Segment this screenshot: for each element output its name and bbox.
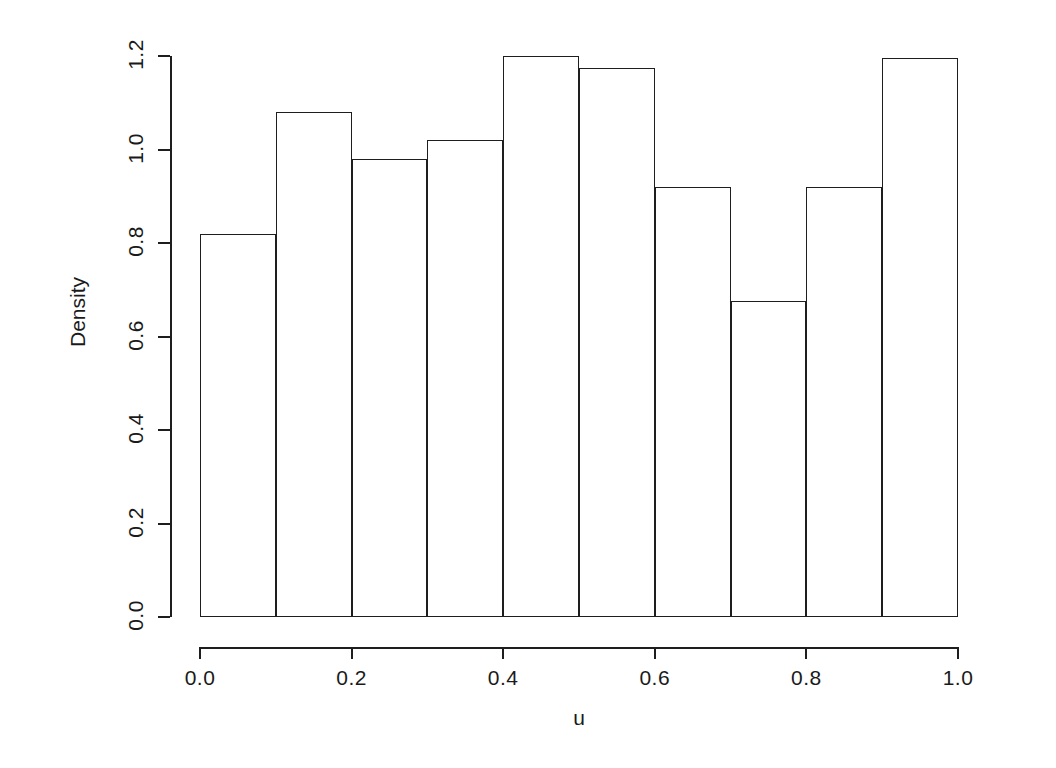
histogram-bar [276,112,352,617]
x-axis-tick [654,647,656,659]
x-axis-tick [957,647,959,659]
y-axis-tick-label-text: 0.0 [125,586,146,646]
histogram-bar [503,56,579,617]
x-axis-tick [805,647,807,659]
histogram-bar [427,140,503,617]
y-axis-tick-label-text: 0.6 [125,305,146,365]
y-axis-title: Density [66,252,90,372]
y-axis-tick-label: 1.2 [105,44,165,68]
x-axis-tick-label: 0.0 [160,666,240,690]
x-axis-tick-label: 0.2 [312,666,392,690]
histogram-figure: Density u 0.00.20.40.60.81.01.20.00.20.4… [0,0,1056,768]
y-axis-line [170,56,172,617]
y-axis-tick-label-text: 0.2 [125,492,146,552]
x-axis-tick [351,647,353,659]
x-axis-line [200,647,958,649]
y-axis-tick-label: 1.0 [105,138,165,162]
histogram-bar [579,68,655,617]
x-axis-tick [199,647,201,659]
y-axis-tick-label: 0.0 [105,605,165,629]
histogram-bar [200,234,276,617]
x-axis-tick-label: 0.4 [463,666,543,690]
histogram-bar [731,301,807,617]
y-axis-tick-label: 0.6 [105,325,165,349]
x-axis-tick-label: 0.8 [766,666,846,690]
y-axis-tick-label-text: 1.0 [125,118,146,178]
y-axis-tick-label: 0.2 [105,512,165,536]
x-axis-tick-label: 0.6 [615,666,695,690]
histogram-bar [655,187,731,617]
y-axis-tick-label: 0.8 [105,231,165,255]
y-axis-tick-label-text: 0.4 [125,399,146,459]
y-axis-tick-label: 0.4 [105,418,165,442]
y-axis-tick-label-text: 1.2 [125,25,146,85]
histogram-bar [882,58,958,617]
x-axis-title: u [200,706,958,730]
x-axis-tick-label: 1.0 [918,666,998,690]
y-axis-tick-label-text: 0.8 [125,212,146,272]
histogram-bar [352,159,428,617]
x-axis-tick [502,647,504,659]
histogram-bar [806,187,882,617]
plot-area [200,56,958,617]
